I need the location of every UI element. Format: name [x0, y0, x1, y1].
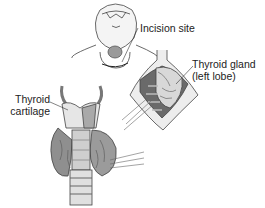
thyroid-gland-label-line2: (left lobe)	[192, 70, 256, 82]
thyroid-gland-label: Thyroid gland (left lobe)	[192, 58, 256, 82]
thyroid-anatomy-drawing	[51, 86, 144, 205]
thyroid-cartilage-label-line1: Thyroid	[10, 93, 50, 105]
incision-site-label: Incision site	[140, 22, 195, 34]
patient-head-drawing	[72, 4, 160, 68]
thyroid-gland-label-line1: Thyroid gland	[192, 58, 256, 70]
thyroid-cartilage-label: Thyroid cartilage	[10, 93, 50, 117]
open-incision-drawing	[122, 50, 198, 130]
thyroid-cartilage-label-line2: cartilage	[10, 105, 50, 117]
